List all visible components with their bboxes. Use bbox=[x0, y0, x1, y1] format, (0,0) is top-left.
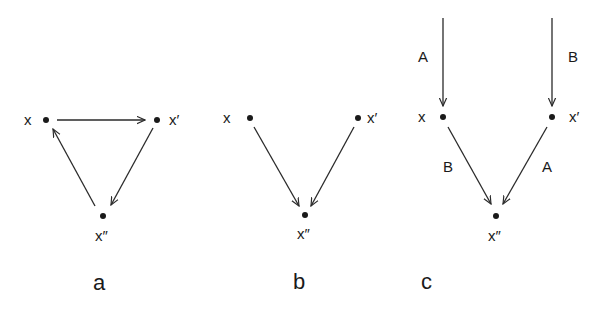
panel-b-label: b bbox=[293, 269, 305, 294]
node-c-x2-label: x″ bbox=[488, 227, 502, 244]
diagram-canvas: x x′ x″ a x x′ x″ b A B B A x x′ x″ c bbox=[0, 0, 606, 310]
panel-a-label: a bbox=[93, 270, 106, 295]
edge-c-input-x1-label: B bbox=[568, 48, 578, 65]
node-a-x2-dot bbox=[100, 213, 106, 219]
node-b-x1-label: x′ bbox=[367, 109, 378, 126]
node-c-x1-dot bbox=[549, 114, 555, 120]
edge-b-x-to-x2 bbox=[254, 127, 299, 206]
node-b-x2-dot bbox=[302, 212, 308, 218]
edge-c-x1-x2-label: A bbox=[542, 158, 552, 175]
node-b-x-dot bbox=[247, 115, 253, 121]
panel-c-label: c bbox=[421, 269, 432, 294]
node-b-x1-dot bbox=[355, 115, 361, 121]
node-a-x-label: x bbox=[24, 111, 32, 128]
node-c-x-label: x bbox=[418, 108, 426, 125]
diagram-svg: x x′ x″ a x x′ x″ b A B B A x x′ x″ c bbox=[0, 0, 606, 310]
node-a-x-dot bbox=[43, 117, 49, 123]
edge-a-x1-to-x2 bbox=[111, 128, 153, 205]
edge-b-x1-to-x2 bbox=[311, 127, 354, 206]
edge-a-x2-to-x bbox=[53, 129, 95, 206]
node-a-x2-label: x″ bbox=[95, 227, 109, 244]
panel-b: x x′ x″ b bbox=[223, 109, 378, 294]
node-a-x1-label: x′ bbox=[169, 111, 180, 128]
node-a-x1-dot bbox=[154, 117, 160, 123]
edge-c-x1-to-x2 bbox=[503, 127, 547, 204]
edge-c-x-to-x2 bbox=[448, 127, 491, 204]
node-b-x-label: x bbox=[223, 109, 231, 126]
edge-c-x-x2-label: B bbox=[443, 158, 453, 175]
edge-c-input-x-label: A bbox=[418, 48, 428, 65]
node-c-x2-dot bbox=[493, 213, 499, 219]
panel-c: A B B A x x′ x″ c bbox=[418, 18, 580, 294]
node-c-x-dot bbox=[440, 114, 446, 120]
panel-a: x x′ x″ a bbox=[24, 111, 180, 295]
node-b-x2-label: x″ bbox=[297, 225, 311, 242]
node-c-x1-label: x′ bbox=[569, 108, 580, 125]
